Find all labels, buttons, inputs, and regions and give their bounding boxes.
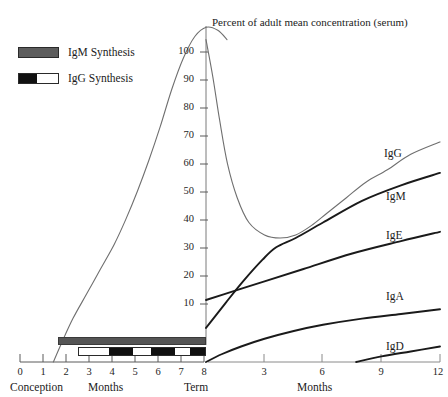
x-tick-label-fetal-8: 8 bbox=[197, 366, 211, 377]
synthesis-bar-igg bbox=[78, 347, 206, 356]
chart-root: IgM Synthesis IgG Synthesis Percent of a… bbox=[0, 0, 448, 397]
x-tick-label-fetal-0: 0 bbox=[13, 366, 27, 377]
x-tick-label-postnatal-6: 6 bbox=[315, 366, 329, 377]
axis-caption-term: Term bbox=[184, 381, 208, 393]
y-tick-label-100: 100 bbox=[172, 45, 194, 56]
igg-bar-segment bbox=[151, 348, 175, 355]
y-tick-label-90: 90 bbox=[172, 73, 194, 84]
series-line-igg bbox=[206, 40, 440, 238]
y-tick-label-70: 70 bbox=[172, 129, 194, 140]
x-tick-label-fetal-2: 2 bbox=[59, 366, 73, 377]
axis-caption-conception: Conception bbox=[10, 381, 63, 393]
y-axis-ticks bbox=[200, 52, 208, 304]
y-tick-label-50: 50 bbox=[172, 185, 194, 196]
x-tick-label-fetal-7: 7 bbox=[174, 366, 188, 377]
y-tick-label-20: 20 bbox=[172, 269, 194, 280]
y-tick-label-30: 30 bbox=[172, 241, 194, 252]
curve-label-igg: IgG bbox=[384, 147, 402, 159]
x-tick-label-postnatal-9: 9 bbox=[374, 366, 388, 377]
igg-bar-segment bbox=[190, 348, 205, 355]
y-tick-label-10: 10 bbox=[172, 297, 194, 308]
curve-label-igd: IgD bbox=[386, 340, 404, 352]
axis-caption-months-fetal: Months bbox=[88, 381, 123, 393]
x-tick-label-fetal-1: 1 bbox=[36, 366, 50, 377]
synthesis-bar-igm bbox=[58, 337, 206, 345]
series-line-iga bbox=[206, 309, 440, 362]
y-tick-label-40: 40 bbox=[172, 213, 194, 224]
curve-label-iga: IgA bbox=[386, 290, 404, 302]
x-tick-label-postnatal-12: 12 bbox=[431, 366, 445, 377]
x-tick-label-fetal-4: 4 bbox=[105, 366, 119, 377]
curve-label-ige: IgE bbox=[386, 229, 403, 241]
x-tick-label-fetal-3: 3 bbox=[82, 366, 96, 377]
series-line-igg bbox=[53, 27, 227, 362]
x-tick-label-postnatal-3: 3 bbox=[257, 366, 271, 377]
x-tick-label-fetal-6: 6 bbox=[151, 366, 165, 377]
y-tick-label-60: 60 bbox=[172, 157, 194, 168]
curve-label-igm: IgM bbox=[386, 190, 406, 202]
x-axis-ticks-postnatal bbox=[264, 354, 440, 362]
axis-caption-months-postnatal: Months bbox=[297, 381, 332, 393]
x-tick-label-fetal-5: 5 bbox=[128, 366, 142, 377]
igg-bar-segment bbox=[109, 348, 133, 355]
y-tick-label-80: 80 bbox=[172, 101, 194, 112]
series-line-ige bbox=[206, 232, 440, 300]
